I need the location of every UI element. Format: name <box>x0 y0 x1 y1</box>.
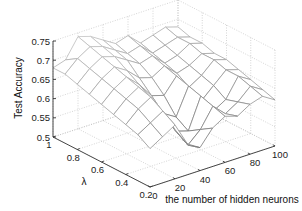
x-tick-label: 100 <box>272 149 288 160</box>
surface-chart: Test Accuracy λ the number of hidden neu… <box>0 0 302 211</box>
y-tick <box>150 186 153 187</box>
z-tick-label: 0.6 <box>37 93 50 104</box>
x-tick <box>223 161 225 162</box>
y-tick-label: 0.4 <box>115 177 128 188</box>
z-tick-label: 0.65 <box>32 74 51 85</box>
z-axis-label: Test Accuracy <box>13 57 24 119</box>
x-tick-label: 80 <box>250 157 261 168</box>
x-tick-label: 20 <box>175 182 186 193</box>
x-axis-label: the number of hidden neurons <box>165 194 298 205</box>
y-tick-label: 0.2 <box>139 189 152 200</box>
surface-mesh <box>53 27 275 149</box>
y-tick-label: 0.8 <box>67 152 80 163</box>
x-tick-label: 0 <box>152 190 157 201</box>
y-tick <box>126 174 129 175</box>
y-tick <box>102 161 105 162</box>
x-tick <box>198 169 200 170</box>
x-tick <box>273 145 275 146</box>
y-tick-label: 0.6 <box>91 164 104 175</box>
x-tick-label: 60 <box>225 165 236 176</box>
z-tick-label: 0.75 <box>32 36 51 47</box>
z-tick-label: 0.55 <box>32 112 51 123</box>
x-tick <box>148 186 150 187</box>
x-tick <box>173 178 175 179</box>
y-axis-label: λ <box>82 176 87 187</box>
x-tick-label: 40 <box>200 174 211 185</box>
z-tick-label: 0.7 <box>37 55 50 66</box>
y-tick <box>77 149 80 150</box>
x-tick <box>248 153 250 154</box>
y-tick-label: 1 <box>46 139 51 150</box>
